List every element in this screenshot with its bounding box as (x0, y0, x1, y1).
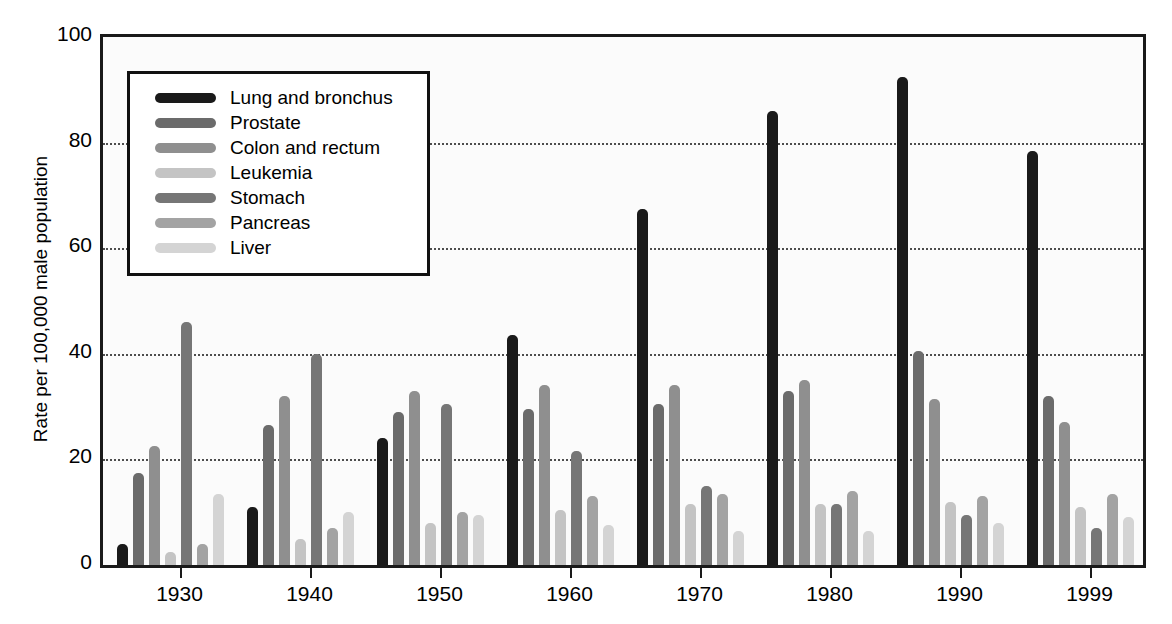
gridline-40 (103, 354, 1143, 356)
chart-legend: Lung and bronchusProstateColon and rectu… (127, 71, 430, 276)
gridline-20 (103, 459, 1143, 461)
bar-1990-liver (993, 523, 1004, 565)
bar-1990-stomach (961, 515, 972, 565)
bar-1960-liver (603, 525, 614, 565)
legend-item-liver[interactable]: Liver (130, 235, 427, 260)
bar-1990-leukemia (945, 502, 956, 565)
bar-1990-lung-and-bronchus (897, 77, 908, 565)
bar-1999-colon-and-rectum (1059, 422, 1070, 565)
bar-1970-pancreas (717, 494, 728, 565)
x-tick-label-1990: 1990 (915, 582, 1005, 606)
bar-1970-lung-and-bronchus (637, 209, 648, 565)
bar-1999-pancreas (1107, 494, 1118, 565)
bar-1999-leukemia (1075, 507, 1086, 565)
legend-item-leukemia[interactable]: Leukemia (130, 160, 427, 185)
x-tick-label-1999: 1999 (1045, 582, 1135, 606)
x-tick-label-1960: 1960 (525, 582, 615, 606)
legend-swatch-icon (155, 118, 216, 128)
x-tick-mark-1990 (960, 565, 962, 578)
x-tick-mark-1980 (830, 565, 832, 578)
legend-swatch-icon (155, 168, 216, 178)
bar-1940-colon-and-rectum (279, 396, 290, 565)
y-tick-label-20: 20 (36, 445, 92, 466)
bar-1950-lung-and-bronchus (377, 438, 388, 565)
bar-1999-lung-and-bronchus (1027, 151, 1038, 565)
bar-1930-prostate (133, 473, 144, 565)
bar-1970-colon-and-rectum (669, 385, 680, 565)
cancer-death-rate-bar-chart: Rate per 100,000 male population 1008060… (0, 0, 1172, 624)
legend-item-label: Colon and rectum (230, 138, 380, 157)
bar-1999-liver (1123, 517, 1134, 565)
legend-swatch-icon (155, 218, 216, 228)
y-axis-tick-labels: 100806040200 (20, 0, 92, 624)
bar-1930-stomach (181, 322, 192, 565)
bar-1930-colon-and-rectum (149, 446, 160, 565)
bar-1950-colon-and-rectum (409, 391, 420, 565)
bar-1940-lung-and-bronchus (247, 507, 258, 565)
legend-swatch-icon (155, 243, 216, 253)
legend-swatch-icon (155, 93, 216, 103)
bar-1980-stomach (831, 504, 842, 565)
bar-1980-pancreas (847, 491, 858, 565)
legend-item-stomach[interactable]: Stomach (130, 185, 427, 210)
bar-1940-liver (343, 512, 354, 565)
x-tick-label-1930: 1930 (135, 582, 225, 606)
bar-1950-pancreas (457, 512, 468, 565)
x-tick-mark-1999 (1090, 565, 1092, 578)
legend-item-lung-and-bronchus[interactable]: Lung and bronchus (130, 85, 427, 110)
bar-1980-liver (863, 531, 874, 565)
y-tick-label-80: 80 (36, 129, 92, 150)
bar-1990-prostate (913, 351, 924, 565)
bar-1960-lung-and-bronchus (507, 335, 518, 565)
bar-1960-leukemia (555, 510, 566, 565)
y-tick-label-60: 60 (36, 234, 92, 255)
bar-1960-colon-and-rectum (539, 385, 550, 565)
x-tick-mark-1930 (180, 565, 182, 578)
bar-1990-pancreas (977, 496, 988, 565)
bar-1960-stomach (571, 451, 582, 565)
y-tick-label-40: 40 (36, 340, 92, 361)
x-tick-mark-1970 (700, 565, 702, 578)
legend-item-colon-and-rectum[interactable]: Colon and rectum (130, 135, 427, 160)
legend-item-label: Prostate (230, 113, 301, 132)
bar-1970-stomach (701, 486, 712, 565)
x-tick-mark-1960 (570, 565, 572, 578)
bar-1960-prostate (523, 409, 534, 565)
legend-item-label: Lung and bronchus (230, 88, 393, 107)
bar-1990-colon-and-rectum (929, 399, 940, 565)
legend-item-label: Pancreas (230, 213, 310, 232)
bar-1930-lung-and-bronchus (117, 544, 128, 565)
bar-1980-prostate (783, 391, 794, 565)
legend-item-label: Stomach (230, 188, 305, 207)
bar-1930-leukemia (165, 552, 176, 565)
bar-1970-liver (733, 531, 744, 565)
legend-swatch-icon (155, 193, 216, 203)
legend-swatch-icon (155, 143, 216, 153)
legend-item-prostate[interactable]: Prostate (130, 110, 427, 135)
bar-1999-prostate (1043, 396, 1054, 565)
bar-1950-leukemia (425, 523, 436, 565)
bar-1940-stomach (311, 354, 322, 565)
legend-item-pancreas[interactable]: Pancreas (130, 210, 427, 235)
bar-1950-prostate (393, 412, 404, 565)
bar-1950-stomach (441, 404, 452, 565)
bar-1940-prostate (263, 425, 274, 565)
bar-1980-leukemia (815, 504, 826, 565)
legend-item-label: Liver (230, 238, 271, 257)
bar-1940-leukemia (295, 539, 306, 565)
bar-1970-leukemia (685, 504, 696, 565)
x-tick-mark-1940 (310, 565, 312, 578)
bar-1999-stomach (1091, 528, 1102, 565)
bar-1930-liver (213, 494, 224, 565)
bar-1980-lung-and-bronchus (767, 111, 778, 565)
x-tick-label-1940: 1940 (265, 582, 355, 606)
bar-1970-prostate (653, 404, 664, 565)
x-tick-label-1970: 1970 (655, 582, 745, 606)
x-tick-mark-1950 (440, 565, 442, 578)
x-tick-label-1950: 1950 (395, 582, 485, 606)
y-tick-label-0: 0 (36, 551, 92, 572)
legend-item-label: Leukemia (230, 163, 312, 182)
bar-1960-pancreas (587, 496, 598, 565)
y-tick-label-100: 100 (36, 23, 92, 44)
x-tick-label-1980: 1980 (785, 582, 875, 606)
